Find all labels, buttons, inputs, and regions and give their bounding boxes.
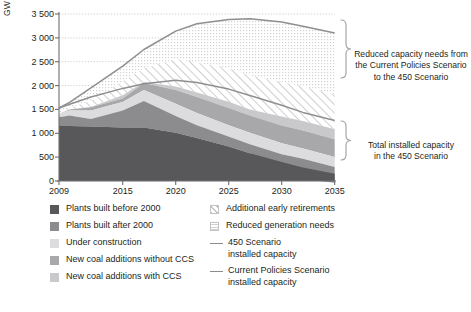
legend-swatch-new-coal-with-ccs bbox=[50, 273, 59, 282]
legend-swatch-new-coal-without-ccs bbox=[50, 256, 59, 265]
y-tick-3500: 3 500 bbox=[31, 10, 54, 19]
y-tick-0: 0 bbox=[49, 177, 54, 186]
legend-swatch-450-scenario bbox=[210, 239, 223, 248]
legend-item-current-policies-scenario[interactable]: Current Policies Scenario installed capa… bbox=[210, 265, 330, 288]
legend-item-new-coal-with-ccs[interactable]: New coal additions with CCS bbox=[50, 271, 182, 283]
y-tick-1000: 1 000 bbox=[31, 129, 54, 138]
chart-legend: Plants built before 2000 Plants built af… bbox=[50, 203, 465, 309]
y-axis-tick-labels: 3 500 3 000 2 500 2 000 1 500 1 000 500 … bbox=[18, 0, 54, 190]
annotation-braces bbox=[341, 20, 351, 160]
x-tick-2020: 2020 bbox=[160, 187, 192, 196]
legend-swatch-additional-early-retirements bbox=[210, 205, 219, 214]
legend-label-plants-before-2000: Plants built before 2000 bbox=[66, 203, 161, 215]
x-tick-2025: 2025 bbox=[213, 187, 245, 196]
legend-item-additional-early-retirements[interactable]: Additional early retirements bbox=[210, 203, 335, 215]
legend-label-current-policies-scenario: Current Policies Scenario installed capa… bbox=[228, 265, 330, 288]
legend-item-reduced-generation-needs[interactable]: Reduced generation needs bbox=[210, 220, 334, 232]
y-tick-1500: 1 500 bbox=[31, 105, 54, 114]
brace-upper bbox=[341, 20, 351, 78]
legend-label-new-coal-with-ccs: New coal additions with CCS bbox=[66, 271, 182, 283]
legend-item-450-scenario[interactable]: 450 Scenario installed capacity bbox=[210, 237, 297, 260]
brace-lower bbox=[341, 121, 351, 160]
y-tick-2000: 2 000 bbox=[31, 82, 54, 91]
legend-swatch-plants-after-2000 bbox=[50, 222, 59, 231]
x-tick-2030: 2030 bbox=[266, 187, 298, 196]
x-axis-ticks bbox=[59, 181, 335, 185]
legend-swatch-plants-before-2000 bbox=[50, 205, 59, 214]
x-tick-2035: 2035 bbox=[319, 187, 351, 196]
y-axis-ticks bbox=[55, 14, 59, 181]
annotation-total-installed-capacity: Total installed capacity in the 450 Scen… bbox=[355, 140, 467, 163]
y-tick-2500: 2 500 bbox=[31, 58, 54, 67]
y-tick-500: 500 bbox=[39, 153, 54, 162]
x-tick-2015: 2015 bbox=[107, 187, 139, 196]
plot-area bbox=[55, 12, 336, 185]
legend-label-new-coal-without-ccs: New coal additions without CCS bbox=[66, 254, 194, 266]
x-tick-2009: 2009 bbox=[43, 187, 75, 196]
annotation-reduced-capacity-needs: Reduced capacity needs from the Current … bbox=[353, 49, 469, 83]
legend-item-plants-before-2000[interactable]: Plants built before 2000 bbox=[50, 203, 161, 215]
y-axis-title: GW bbox=[2, 1, 12, 16]
legend-label-450-scenario: 450 Scenario installed capacity bbox=[228, 237, 297, 260]
legend-label-under-construction: Under construction bbox=[66, 237, 142, 249]
legend-label-plants-after-2000: Plants built after 2000 bbox=[66, 220, 153, 232]
legend-swatch-reduced-generation-needs bbox=[210, 222, 219, 231]
legend-item-new-coal-without-ccs[interactable]: New coal additions without CCS bbox=[50, 254, 194, 266]
legend-swatch-under-construction bbox=[50, 239, 59, 248]
legend-label-additional-early-retirements: Additional early retirements bbox=[226, 203, 335, 215]
legend-item-under-construction[interactable]: Under construction bbox=[50, 237, 142, 249]
legend-swatch-current-policies-scenario bbox=[210, 267, 223, 276]
legend-item-plants-after-2000[interactable]: Plants built after 2000 bbox=[50, 220, 153, 232]
y-tick-3000: 3 000 bbox=[31, 34, 54, 43]
legend-label-reduced-generation-needs: Reduced generation needs bbox=[226, 220, 334, 232]
